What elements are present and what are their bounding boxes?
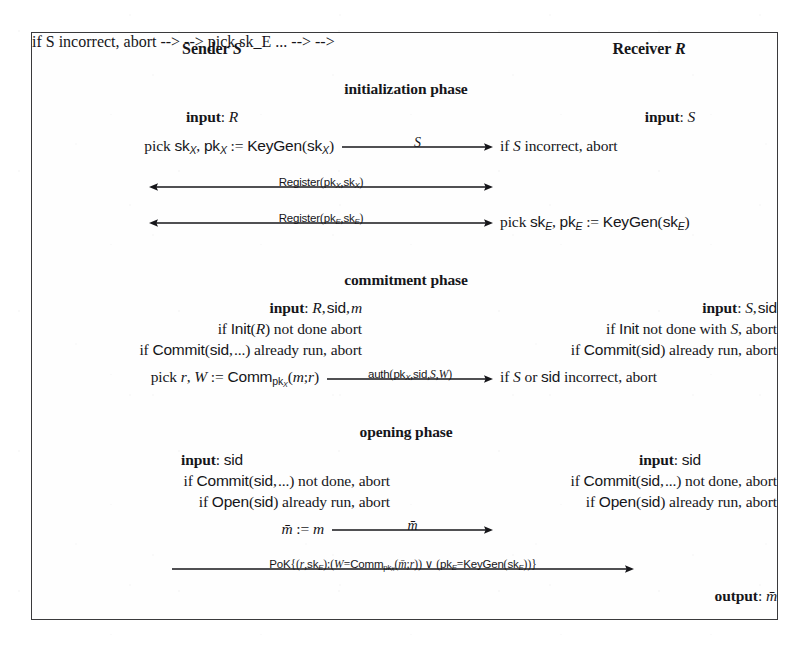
arrow-glyph-right [327,373,493,385]
arrow-open-mbar: m̄ [332,506,493,536]
phase-header-opening: opening phase [359,422,452,442]
party-header-receiver: Receiver R [613,39,686,59]
arrow-sender-to-receiver-S: S [342,121,493,153]
open-right-output: output: m̄ [715,586,777,606]
arrow-glyph-right [172,563,634,575]
commit-right-rerun-check: if Commit(sid) already run, abort [571,340,777,360]
open-right-commit-check: if Commit(sid, ...) not done, abort [570,471,777,491]
arrow-glyph-right [332,524,493,536]
arrow-glyph-bidirectional [149,217,493,229]
arrow-glyph-right [342,141,493,153]
arrow-register-X: Register(pkX,skX) [149,161,493,193]
party-header-sender: Sender S [182,39,242,59]
arrow-proof-of-knowledge: PoK{(r,skE):(W=CommpkX(m̄;r)) ∨ (pkE=Key… [172,545,634,575]
arrow-glyph-bidirectional [149,181,493,193]
protocol-diagram-body: Sender S Receiver R initialization phase… [32,33,777,619]
open-left-assign: m̄ := m [281,519,324,539]
init-right-input: input: S [645,107,695,127]
commit-left-compute: pick r, W := CommpkX(m;r) [151,367,319,387]
arrow-auth-message: auth(pkX,sid,S,W) [327,355,493,385]
init-right-check: if S incorrect, abort [500,136,618,156]
phase-header-initialization: initialization phase [344,79,467,99]
open-left-commit-check: if Commit(sid, ...) not done, abort [183,471,390,491]
protocol-diagram-frame: Sender S Receiver R initialization phase… [31,32,778,620]
arrow-register-E: Register(pkE,skE) [149,197,493,229]
commit-right-init-check: if Init not done with S, abort [606,319,777,339]
init-right-keygen: pick skE, pkE := KeyGen(skE) [500,212,690,232]
open-left-input: input: sid [181,450,243,470]
commit-left-input: input: R, sid, m [270,298,362,318]
init-left-input: input: R [186,107,238,127]
open-right-input: input: sid [639,450,701,470]
init-left-keygen: pick skX, pkX := KeyGen(skX) [144,136,334,156]
commit-right-input: input: S, sid [702,298,777,318]
phase-header-commitment: commitment phase [344,270,468,290]
commit-right-check: if S or sid incorrect, abort [500,367,657,387]
commit-left-init-check: if Init(R) not done abort [218,319,362,339]
open-right-open-check: if Open(sid) already run, abort [586,492,777,512]
